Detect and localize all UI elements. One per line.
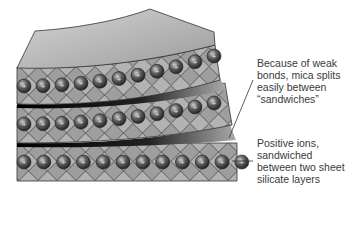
positive-ion: + [55, 78, 69, 92]
positive-charge-symbol: + [136, 71, 141, 80]
label-positive-ions: Positive ions, sandwiched between two sh… [257, 137, 349, 185]
positive-ion: + [112, 112, 126, 126]
positive-ion: + [36, 117, 50, 131]
positive-ion: + [215, 155, 229, 169]
positive-ion: + [131, 109, 145, 123]
positive-charge-symbol: + [160, 158, 165, 167]
positive-charge-symbol: + [41, 82, 46, 91]
positive-ion: + [93, 114, 107, 128]
positive-ion: + [17, 155, 31, 169]
label-weak-bonds: Because of weak bonds, mica splits easil… [257, 57, 349, 105]
positive-charge-symbol: + [117, 75, 122, 84]
positive-charge-symbol: + [22, 82, 27, 91]
positive-charge-symbol: + [193, 103, 198, 112]
positive-ion: + [76, 155, 90, 169]
positive-charge-symbol: + [60, 119, 65, 128]
positive-charge-symbol: + [22, 120, 27, 129]
positive-charge-symbol: + [174, 107, 179, 116]
positive-charge-symbol: + [155, 110, 160, 119]
positive-charge-symbol: + [41, 158, 46, 167]
positive-ion: + [156, 155, 170, 169]
positive-charge-symbol: + [200, 158, 205, 167]
positive-ion: + [188, 55, 202, 69]
positive-charge-symbol: + [101, 158, 106, 167]
positive-ion: + [175, 155, 189, 169]
positive-ion: + [169, 104, 183, 118]
positive-ion: + [93, 74, 107, 88]
positive-charge-symbol: + [117, 115, 122, 124]
leader-line-weak-bonds [229, 80, 253, 138]
positive-charge-symbol: + [174, 63, 179, 72]
positive-ion: + [195, 155, 209, 169]
positive-ion: + [150, 64, 164, 78]
positive-charge-symbol: + [239, 158, 244, 167]
positive-ion: + [207, 96, 221, 110]
positive-charge-symbol: + [22, 158, 27, 167]
positive-charge-symbol: + [193, 58, 198, 67]
positive-charge-symbol: + [212, 99, 217, 108]
positive-charge-symbol: + [121, 158, 126, 167]
positive-ion: + [74, 76, 88, 90]
positive-ion: + [207, 49, 221, 63]
positive-charge-symbol: + [98, 77, 103, 86]
positive-charge-symbol: + [61, 158, 66, 167]
positive-charge-symbol: + [60, 81, 65, 90]
positive-ion: + [36, 79, 50, 93]
positive-charge-symbol: + [136, 112, 141, 121]
positive-charge-symbol: + [180, 158, 185, 167]
positive-charge-symbol: + [155, 67, 160, 76]
positive-charge-symbol: + [41, 120, 46, 129]
positive-ion: + [17, 117, 31, 131]
positive-ion: + [17, 79, 31, 93]
positive-ion: + [131, 68, 145, 82]
positive-charge-symbol: + [79, 118, 84, 127]
positive-ion: + [188, 100, 202, 114]
positive-ion: + [136, 155, 150, 169]
positive-ion: + [37, 155, 51, 169]
positive-charge-symbol: + [220, 158, 225, 167]
positive-charge-symbol: + [140, 158, 145, 167]
positive-charge-symbol: + [79, 79, 84, 88]
positive-ion: + [74, 115, 88, 129]
positive-charge-symbol: + [212, 52, 217, 61]
positive-ion: + [150, 107, 164, 121]
positive-ion: + [235, 155, 249, 169]
positive-charge-symbol: + [81, 158, 86, 167]
positive-ion: + [112, 72, 126, 86]
positive-ion: + [57, 155, 71, 169]
positive-ion: + [169, 60, 183, 74]
positive-ion: + [116, 155, 130, 169]
positive-ion: + [96, 155, 110, 169]
positive-charge-symbol: + [98, 117, 103, 126]
positive-ion: + [55, 116, 69, 130]
